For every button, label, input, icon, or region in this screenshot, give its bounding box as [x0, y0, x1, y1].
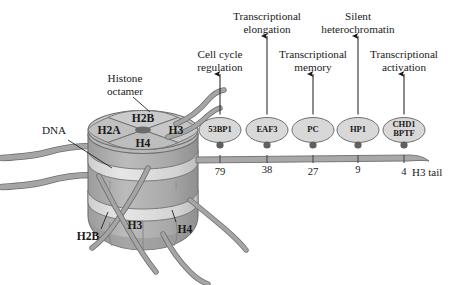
octamer-center-knot [135, 127, 151, 134]
reader-name-line1: CHD1 [393, 119, 416, 129]
residue-number-79: 79 [204, 166, 236, 178]
reader-dot-9 [354, 141, 361, 148]
dna-label: DNA [36, 124, 72, 137]
reader-dot-38 [263, 141, 270, 148]
reader-name-line2: BPTF [393, 128, 415, 138]
function-line2: regulation [197, 61, 242, 73]
function-line2: activation [382, 61, 426, 73]
dna-strand-lower [2, 175, 92, 187]
histone-octamer-label: Histoneoctamer [90, 72, 160, 97]
function-label-CHD1: Transcriptionalactivation [354, 48, 454, 73]
histone-octamer-line2: octamer [107, 85, 143, 97]
residue-number-38: 38 [251, 164, 283, 176]
reader-name-EAF3: EAF3 [241, 125, 293, 135]
residue-number-9: 9 [342, 164, 374, 176]
nucleosome-histone-modification-diagram: Histoneoctamer DNA H2B H2A H3 H4 H2B H3 … [0, 0, 458, 285]
leader-histone-octamer [133, 97, 150, 112]
histone-label-h2b-bottom: H2B [71, 230, 105, 243]
reader-name-CHD1: CHD1BPTF [378, 120, 430, 139]
function-label-53BP1: Cell cycleregulation [170, 48, 270, 73]
reader-name-53BP1: 53BP1 [194, 125, 246, 135]
histone-label-h4-bottom: H4 [171, 223, 199, 236]
function-label-PC: Transcriptionalmemory [263, 48, 363, 73]
residue-number-4: 4 [388, 166, 420, 178]
function-line1: Silent [345, 10, 371, 22]
histone-label-h2b-top: H2B [125, 112, 161, 125]
histone-label-h4-top: H4 [128, 137, 158, 150]
function-line2: memory [294, 61, 331, 73]
function-line1: Transcriptional [370, 48, 438, 60]
dna-strand-group [2, 146, 92, 187]
dna-strand-upper [2, 146, 92, 158]
histone-label-h3-bottom: H3 [121, 219, 149, 232]
residue-number-27: 27 [297, 166, 329, 178]
histone-octamer-line1: Histone [108, 72, 143, 84]
reader-name-line1: HP1 [350, 124, 366, 134]
function-label-HP1: Silentheterochromatin [308, 10, 408, 35]
reader-name-line1: 53BP1 [208, 124, 231, 134]
function-line1: Cell cycle [197, 48, 242, 60]
function-line1: Transcriptional [279, 48, 347, 60]
histone-label-h2a-top: H2A [91, 124, 127, 137]
function-label-EAF3: Transcriptionalelongation [217, 10, 317, 35]
function-line2: heterochromatin [321, 23, 394, 35]
reader-dot-27 [309, 141, 316, 148]
function-line1: Transcriptional [233, 10, 301, 22]
reader-name-line1: PC [307, 124, 318, 134]
histone-tail-down-3-outline [163, 234, 208, 284]
diagram-canvas [0, 0, 458, 285]
histone-label-h3-top: H3 [161, 124, 191, 137]
function-line2: elongation [243, 23, 290, 35]
reader-dot-79 [216, 141, 223, 148]
reader-name-HP1: HP1 [332, 125, 384, 135]
reader-name-line1: EAF3 [256, 124, 277, 134]
reader-dot-4 [400, 141, 407, 148]
